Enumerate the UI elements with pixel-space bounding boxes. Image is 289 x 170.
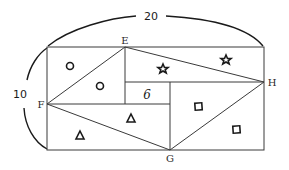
triangle-symbol-icon [76, 131, 84, 139]
point-e-label: E [121, 35, 128, 46]
circle-symbol-icon [67, 63, 74, 70]
height-dimension-arc-bottom [24, 108, 47, 149]
outer-rectangle [47, 47, 264, 150]
point-f-label: F [38, 99, 45, 110]
star-symbol-icon [221, 55, 231, 64]
star-symbol-icon [158, 64, 168, 73]
height-dimension-arc-top [27, 48, 47, 80]
square-symbol-icon [195, 103, 202, 110]
triangle-symbol-icon [127, 114, 135, 122]
width-dimension-arc-right [166, 16, 263, 46]
height-label: 10 [13, 88, 27, 101]
quadrilateral-efgh [47, 47, 264, 150]
point-h-label: H [268, 77, 277, 88]
point-g-label: G [166, 153, 174, 164]
inner-square-label: 6 [143, 88, 151, 102]
circle-symbol-icon [97, 83, 104, 90]
geometry-diagram: 20 10 E F G H 6 [0, 0, 289, 170]
square-symbol-icon [233, 126, 240, 133]
width-label: 20 [144, 10, 158, 23]
